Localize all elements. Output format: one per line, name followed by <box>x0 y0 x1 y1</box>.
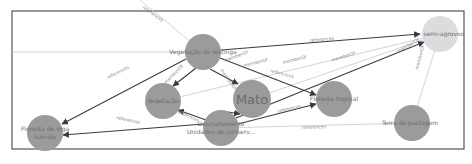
node-floresta-humida[interactable]: Floresta de inga húmida <box>21 115 70 151</box>
node-vegetacao[interactable]: Vegetação <box>145 83 181 119</box>
edge-label-desm-terra: references <box>302 124 327 130</box>
edge-label-top-cut: references <box>141 5 164 23</box>
node-label-line1: Floresta de inga <box>21 125 70 133</box>
edge-label-desm-vegetacao: references <box>176 108 201 123</box>
node-floresta-tropical[interactable]: Floresta tropical <box>310 81 359 117</box>
edge-label-desm-floresta-humida: references <box>116 115 141 125</box>
node-label: Terra de pastagem <box>381 119 438 127</box>
edge-label-restinga-floresta-humida: references <box>106 64 130 80</box>
node-terra-de-pastagem[interactable]: Terra de pastagem <box>381 105 438 141</box>
edge-label-desm-floresta-tropical: references <box>277 103 302 114</box>
edge-label-mato-semi: memberOf <box>331 50 356 62</box>
edge-label-restinga-vegetacao: memberOf <box>163 63 184 84</box>
edge-label-vegetacao-semi-2: memberOf <box>243 57 268 68</box>
node-label: Floresta tropical <box>310 95 359 103</box>
node-label-line1: Desmatamento <box>198 120 245 127</box>
node-label: semi-agrovoo <box>424 30 465 38</box>
node-label-line2: húmida <box>34 133 57 140</box>
node-mato[interactable]: Mato <box>233 80 271 118</box>
node-label: Vegetação <box>147 97 179 105</box>
node-label: Vegetação de restinga <box>169 48 237 56</box>
edge-label-restinga-mato: memberOf <box>219 68 237 91</box>
edge-label-restinga-semi: references <box>310 36 335 43</box>
edge-label-vegetacao-semi: memberOf <box>282 54 307 65</box>
graph-canvas[interactable]: references references references memberO… <box>0 0 472 164</box>
node-label: Mato <box>236 92 268 107</box>
node-label-line2: Unidades de conserv... <box>187 128 255 135</box>
edge-desm-floresta-humida[interactable] <box>63 124 204 135</box>
edge-label-terra-semi: memberOf <box>414 45 425 70</box>
faint-edges <box>12 0 440 128</box>
node-semi-agrovoo[interactable]: semi-agrovoo <box>422 16 465 52</box>
